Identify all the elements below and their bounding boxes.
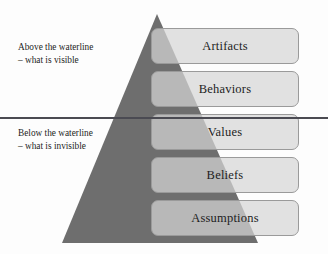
note-below-line2: – what is invisible <box>18 140 144 153</box>
note-above-line1: Above the waterline <box>18 41 144 54</box>
layer-label-assumptions: Assumptions <box>191 212 259 225</box>
layer-label-artifacts: Artifacts <box>202 40 248 53</box>
layer-box-behaviors[interactable]: Behaviors <box>151 71 299 107</box>
note-above-line2: – what is visible <box>18 54 144 67</box>
layer-label-beliefs: Beliefs <box>207 169 244 182</box>
cultural-iceberg-diagram: Artifacts Behaviors Values Beliefs Assum… <box>0 0 328 254</box>
layer-label-values: Values <box>208 126 243 139</box>
note-above-waterline: Above the waterline – what is visible <box>18 41 144 67</box>
note-below-line1: Below the waterline <box>18 127 144 140</box>
layer-box-assumptions[interactable]: Assumptions <box>151 200 299 236</box>
layer-label-behaviors: Behaviors <box>199 83 251 96</box>
note-below-waterline: Below the waterline – what is invisible <box>18 127 144 153</box>
waterline-divider <box>0 117 328 119</box>
layer-box-beliefs[interactable]: Beliefs <box>151 157 299 193</box>
layer-box-artifacts[interactable]: Artifacts <box>151 28 299 64</box>
layer-box-values[interactable]: Values <box>151 114 299 150</box>
